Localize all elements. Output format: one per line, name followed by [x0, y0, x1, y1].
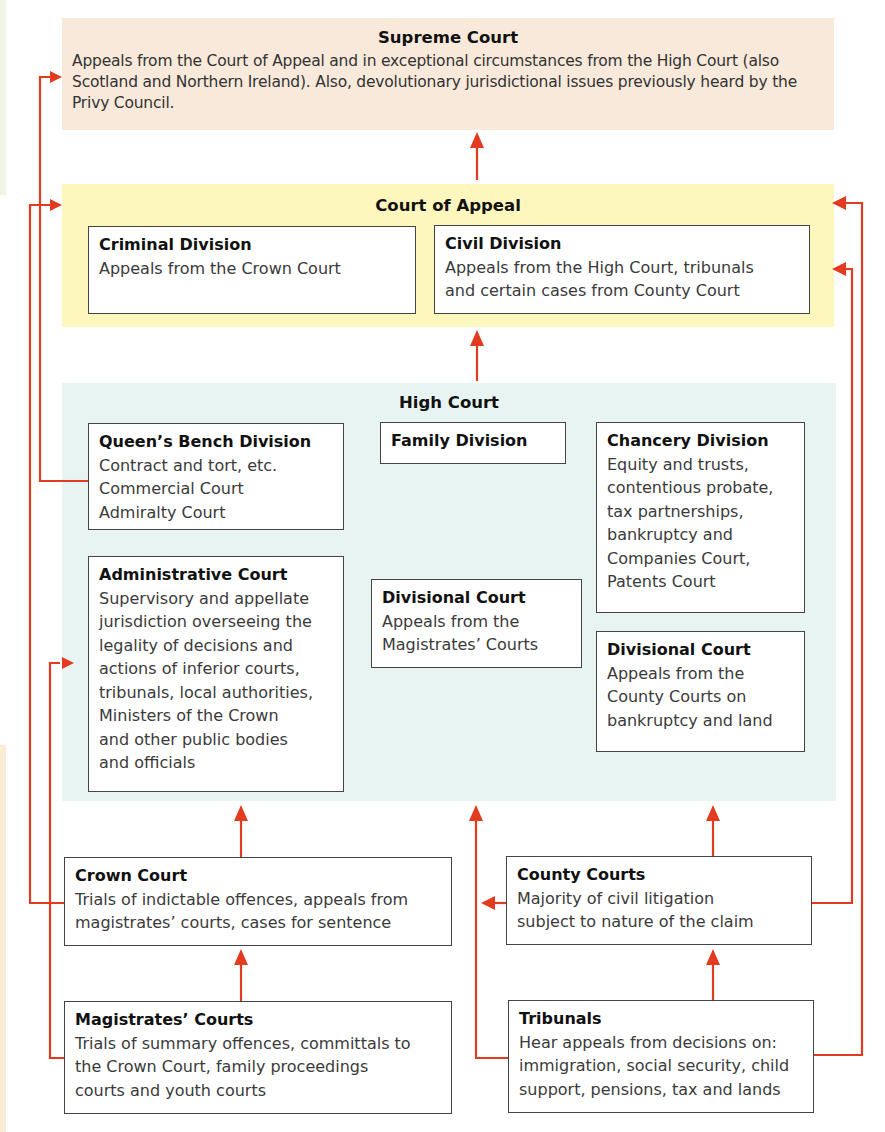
administrative-court-box: Administrative Court Supervisory and app…: [88, 556, 344, 792]
civil-division-title: Civil Division: [445, 232, 799, 256]
divisional-court-county-body: Appeals from the County Courts on bankru…: [607, 662, 794, 733]
supreme-court-description: Appeals from the Court of Appeal and in …: [72, 51, 832, 114]
magistrates-courts-box: Magistrates’ Courts Trials of summary of…: [64, 1001, 452, 1114]
criminal-division-title: Criminal Division: [99, 233, 405, 257]
high-court-title: High Court: [62, 393, 836, 412]
chancery-division-title: Chancery Division: [607, 429, 794, 453]
family-division-box: Family Division: [380, 422, 566, 464]
queens-bench-division-box: Queen’s Bench Division Contract and tort…: [88, 423, 344, 530]
crown-court-title: Crown Court: [75, 864, 441, 888]
civil-division-body: Appeals from the High Court, tribunals a…: [445, 256, 799, 303]
divisional-court-county-title: Divisional Court: [607, 638, 794, 662]
court-of-appeal-title: Court of Appeal: [62, 196, 834, 215]
administrative-court-title: Administrative Court: [99, 563, 333, 587]
magistrates-courts-title: Magistrates’ Courts: [75, 1008, 441, 1032]
criminal-division-box: Criminal Division Appeals from the Crown…: [88, 226, 416, 314]
tribunals-body: Hear appeals from decisions on: immigrat…: [519, 1031, 803, 1102]
magistrates-courts-body: Trials of summary offences, committals t…: [75, 1032, 441, 1103]
divisional-court-county-box: Divisional Court Appeals from the County…: [596, 631, 805, 752]
chancery-division-box: Chancery Division Equity and trusts, con…: [596, 422, 805, 613]
tribunals-title: Tribunals: [519, 1007, 803, 1031]
divisional-court-magistrates-body: Appeals from the Magistrates’ Courts: [382, 610, 571, 657]
queens-bench-division-title: Queen’s Bench Division: [99, 430, 333, 454]
page-edge-strip: [0, 745, 6, 1132]
administrative-court-body: Supervisory and appellate jurisdiction o…: [99, 587, 333, 775]
family-division-title: Family Division: [391, 429, 555, 453]
page-edge-strip: [0, 0, 6, 195]
criminal-division-body: Appeals from the Crown Court: [99, 257, 405, 281]
divisional-court-magistrates-box: Divisional Court Appeals from the Magist…: [371, 579, 582, 668]
crown-court-body: Trials of indictable offences, appeals f…: [75, 888, 441, 935]
queens-bench-division-body: Contract and tort, etc. Commercial Court…: [99, 454, 333, 525]
civil-division-box: Civil Division Appeals from the High Cou…: [434, 225, 810, 314]
divisional-court-magistrates-title: Divisional Court: [382, 586, 571, 610]
supreme-court-panel: Supreme Court Appeals from the Court of …: [62, 18, 834, 130]
county-courts-body: Majority of civil litigation subject to …: [517, 887, 801, 934]
county-courts-title: County Courts: [517, 863, 801, 887]
tribunals-box: Tribunals Hear appeals from decisions on…: [508, 1000, 814, 1113]
crown-court-box: Crown Court Trials of indictable offence…: [64, 857, 452, 946]
supreme-court-title: Supreme Court: [62, 28, 834, 47]
chancery-division-body: Equity and trusts, contentious probate, …: [607, 453, 794, 594]
county-courts-box: County Courts Majority of civil litigati…: [506, 856, 812, 945]
